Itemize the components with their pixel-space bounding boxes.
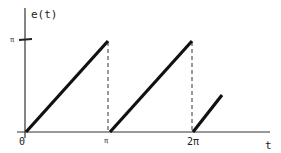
ramp-segment-3 [193,95,222,132]
y-axis-label: e(t) [31,8,58,21]
x-tick-label-pi: π [104,137,109,145]
ramp-segment-1 [26,41,108,132]
sawtooth-diagram: e(t) π 0 π 2π t [0,0,281,153]
y-tick-pi [19,39,32,40]
y-tick-label-pi: π [10,36,15,44]
ramp-segment-2 [110,41,192,132]
x-tick-label-2pi: 2π [187,136,199,147]
x-axis-label: t [265,139,272,152]
x-tick-label-0: 0 [19,136,25,147]
